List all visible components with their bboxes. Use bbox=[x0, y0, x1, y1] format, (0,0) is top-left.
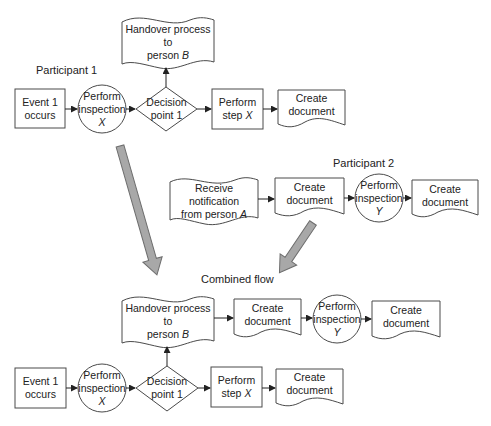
p2-inspection-circle[interactable] bbox=[355, 174, 403, 222]
c-document2-shape[interactable] bbox=[372, 301, 440, 339]
participant2-flow bbox=[170, 174, 478, 225]
participant1-title: Participant 1 bbox=[36, 64, 97, 76]
combined-flow bbox=[15, 295, 440, 412]
c-document1-shape[interactable] bbox=[234, 299, 301, 337]
p1-event-box[interactable] bbox=[15, 89, 65, 128]
c-inspectionY-circle[interactable] bbox=[313, 295, 361, 343]
combined-flow-title: Combined flow bbox=[201, 273, 274, 285]
merge-arrow-left bbox=[110, 143, 166, 277]
p1-decision-diamond[interactable] bbox=[136, 87, 197, 131]
c-step-box[interactable] bbox=[211, 367, 262, 407]
c-inspectionX-circle[interactable] bbox=[78, 364, 126, 412]
p2-receive-shape[interactable] bbox=[170, 178, 258, 225]
participant2-title: Participant 2 bbox=[333, 157, 394, 169]
p2-document2-shape[interactable] bbox=[412, 180, 478, 217]
c-handover-shape[interactable] bbox=[122, 297, 214, 348]
p1-inspection-circle[interactable] bbox=[78, 85, 126, 133]
c-event-box[interactable] bbox=[15, 368, 66, 408]
c-document3-shape[interactable] bbox=[276, 369, 343, 406]
p1-step-box[interactable] bbox=[212, 89, 263, 129]
p1-handover-shape[interactable] bbox=[122, 18, 214, 69]
c-decision-diamond[interactable] bbox=[136, 366, 198, 411]
merge-arrow-right bbox=[271, 217, 321, 278]
p1-document-shape[interactable] bbox=[278, 90, 345, 127]
p2-document1-shape[interactable] bbox=[275, 178, 344, 216]
